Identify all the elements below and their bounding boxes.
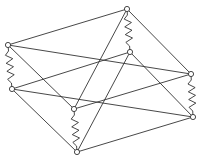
tensegrity-diagram xyxy=(0,0,206,155)
spring-E-F xyxy=(188,74,196,117)
line-A-G xyxy=(8,45,74,109)
line-H-F xyxy=(77,117,193,152)
node-E xyxy=(188,71,193,76)
joint-nodes xyxy=(5,6,195,154)
node-A xyxy=(5,42,10,47)
spring-A-B xyxy=(5,45,14,89)
line-A-C xyxy=(8,9,127,45)
spring-G-H xyxy=(71,109,79,152)
node-D xyxy=(127,49,132,54)
node-F xyxy=(190,114,195,119)
line-B-D xyxy=(12,52,130,89)
strut-lines xyxy=(8,9,193,152)
node-G xyxy=(71,106,76,111)
line-A-E xyxy=(8,45,191,74)
node-H xyxy=(74,149,79,154)
line-G-E xyxy=(74,74,191,109)
node-C xyxy=(124,6,129,11)
line-B-H xyxy=(12,89,77,152)
line-D-H xyxy=(77,52,130,152)
node-B xyxy=(9,86,14,91)
line-C-E xyxy=(127,9,191,74)
line-D-F xyxy=(130,52,193,117)
line-C-G xyxy=(74,9,127,109)
springs xyxy=(5,9,195,152)
spring-C-D xyxy=(124,9,132,52)
